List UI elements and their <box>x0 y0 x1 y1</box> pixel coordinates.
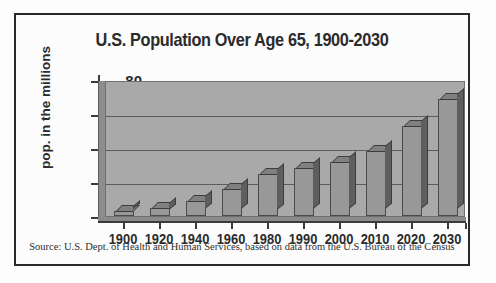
source-note: Source: U.S. Dept. of Health and Human S… <box>16 241 468 252</box>
y-axis-title: pop. in the millions <box>38 38 53 178</box>
chart-figure: U.S. Population Over Age 65, 1900-2030 p… <box>0 0 496 283</box>
bar-side-face <box>313 158 320 209</box>
bar-2020 <box>402 126 422 216</box>
bar-side-face <box>457 88 464 209</box>
x-axis-end-tick <box>465 223 467 229</box>
chart-frame-border: U.S. Population Over Age 65, 1900-2030 p… <box>14 13 470 266</box>
x-axis-tick-mark <box>159 223 161 229</box>
x-axis-tick-mark <box>303 223 305 229</box>
bar-1920 <box>150 208 170 217</box>
bar-side-face <box>205 190 212 209</box>
x-axis-tick-mark <box>375 223 377 229</box>
y-axis-tick-mark <box>91 183 98 185</box>
bar-side-face <box>349 151 356 209</box>
bar-1990 <box>294 168 314 216</box>
bar-2010 <box>366 151 386 216</box>
bar-2030 <box>438 99 458 216</box>
bar-1900 <box>114 211 134 216</box>
x-axis-tick-mark <box>231 223 233 229</box>
y-axis-tick-mark <box>91 81 98 83</box>
bar-1960 <box>222 189 242 216</box>
bar-side-face <box>241 178 248 209</box>
bar-1980 <box>258 174 278 217</box>
x-axis-tick-mark <box>195 223 197 229</box>
gridline <box>106 116 464 117</box>
x-axis-tick-mark <box>123 223 125 229</box>
bar-side-face <box>421 115 428 209</box>
y-axis-tick-mark <box>91 217 98 219</box>
chart-title: U.S. Population Over Age 65, 1900-2030 <box>43 29 441 51</box>
y-axis-tick-mark <box>91 149 98 151</box>
bar-1940 <box>186 201 206 216</box>
plot-area <box>105 81 465 217</box>
x-axis-tick-mark <box>267 223 269 229</box>
x-axis-tick-mark <box>411 223 413 229</box>
bar-side-face <box>277 163 284 209</box>
x-axis-tick-mark <box>447 223 449 229</box>
bar-side-face <box>385 141 392 209</box>
bar-2000 <box>330 162 350 216</box>
bar-side-face <box>169 197 176 209</box>
plot-region: 020406080 190019201940196019801990200020… <box>78 75 472 223</box>
y-axis-tick-mark <box>91 115 98 117</box>
x-axis-tick-mark <box>339 223 341 229</box>
